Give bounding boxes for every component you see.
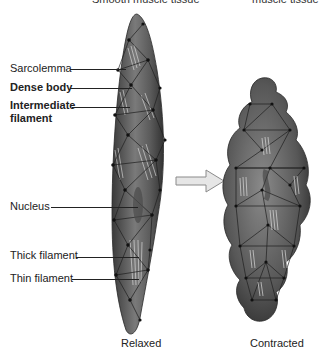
label-intermediate-line1: Intermediate — [10, 99, 75, 111]
label-nucleus: Nucleus — [10, 200, 50, 213]
leader-line-dense-body — [70, 88, 132, 89]
label-thick-filament: Thick filament — [10, 249, 78, 262]
contraction-arrow-icon — [176, 170, 224, 192]
contracted-cell — [223, 78, 310, 322]
leader-line-nucleus — [51, 207, 138, 208]
caption-contracted: Contracted — [250, 337, 304, 349]
leader-line-thin-filament — [72, 279, 139, 280]
nucleus-shape — [133, 187, 143, 223]
leader-line-intermediate-filament — [72, 107, 130, 108]
label-intermediate-filament: Intermediate filament — [10, 99, 75, 125]
relaxed-cell — [111, 14, 166, 334]
caption-relaxed: Relaxed — [121, 337, 161, 349]
label-thin-filament: Thin filament — [10, 272, 73, 285]
leader-line-sarcolemma — [70, 69, 126, 70]
label-dense-body: Dense body — [10, 81, 72, 94]
muscle-cell-illustration — [0, 0, 330, 349]
label-intermediate-line2: filament — [10, 112, 52, 124]
label-sarcolemma: Sarcolemma — [10, 62, 72, 75]
leader-line-thick-filament — [76, 257, 139, 258]
